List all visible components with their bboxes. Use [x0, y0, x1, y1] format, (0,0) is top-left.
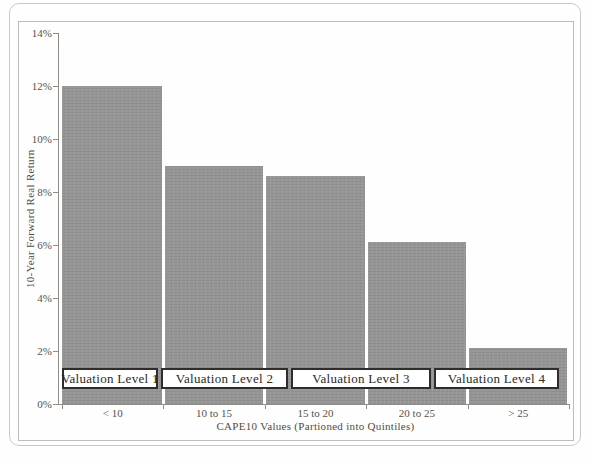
x-axis-line: [58, 404, 570, 405]
y-tick-label: 10%: [20, 133, 52, 145]
x-tick-label: 10 to 15: [163, 407, 264, 419]
valuation-level-box-2: Valuation Level 2: [161, 368, 288, 389]
y-tick-label: 14%: [20, 27, 52, 39]
y-tick-label: 12%: [20, 80, 52, 92]
y-tick: [53, 139, 58, 140]
y-tick: [53, 404, 58, 405]
x-tick: [569, 404, 570, 409]
valuation-level-box-3: Valuation Level 3: [291, 368, 431, 389]
x-axis-title: CAPE10 Values (Partioned into Quintiles): [62, 420, 569, 432]
valuation-level-box-1: Valuation Level 1: [62, 368, 158, 389]
y-tick: [53, 298, 58, 299]
x-tick-label: 15 to 20: [265, 407, 366, 419]
x-tick-label: 20 to 25: [366, 407, 467, 419]
y-tick-label: 8%: [20, 186, 52, 198]
scanned-bar-chart-page: 10-Year Forward Real Return CAPE10 Value…: [0, 0, 590, 459]
y-tick: [53, 351, 58, 352]
y-axis-line: [58, 33, 59, 404]
y-tick-label: 4%: [20, 292, 52, 304]
bar-quintile-1: [62, 86, 162, 404]
y-tick-label: 2%: [20, 345, 52, 357]
y-tick: [53, 86, 58, 87]
valuation-level-box-4: Valuation Level 4: [434, 368, 559, 389]
x-tick-label: > 25: [468, 407, 569, 419]
y-tick-label: 0%: [20, 398, 52, 410]
y-tick: [53, 192, 58, 193]
y-tick: [53, 245, 58, 246]
x-tick-label: < 10: [62, 407, 163, 419]
y-tick-label: 6%: [20, 239, 52, 251]
y-tick: [53, 33, 58, 34]
